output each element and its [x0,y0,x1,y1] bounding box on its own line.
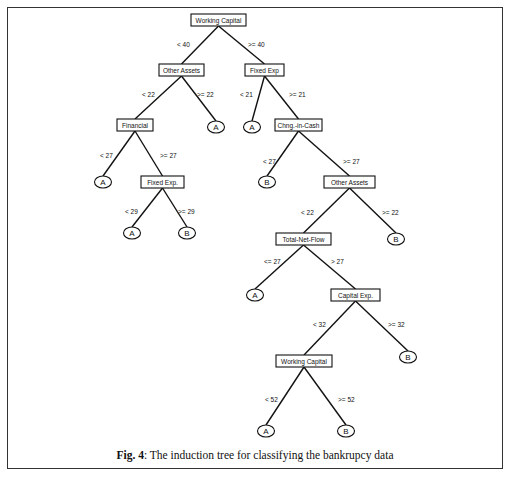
tree-edge [304,301,356,355]
tree-edge [299,131,350,176]
edge-condition-label: < 29 [125,208,138,215]
edge-condition-label: < 21 [240,91,253,98]
tree-nodes: Working CapitalOther AssetsFixed ExpFina… [95,14,417,437]
tree-edge [252,76,265,121]
split-node-label: Capital Exp. [338,292,373,300]
edge-condition-label: < 27 [263,158,276,165]
edge-condition-label: <= 27 [264,258,281,265]
leaf-class-label: B [405,353,410,362]
leaf-class-label: A [100,178,106,187]
leaf-node: A [124,227,141,239]
tree-edges: < 40>= 40< 22>= 22< 21>= 21< 27>= 27< 27… [100,26,408,425]
leaf-class-label: A [129,229,135,238]
leaf-class-label: B [393,235,398,244]
leaf-class-label: A [263,427,269,436]
tree-edge [135,131,163,176]
leaf-node: A [258,425,275,437]
leaf-class-label: B [264,178,269,187]
edge-condition-label: < 32 [313,321,326,328]
edge-condition-label: >= 52 [338,396,355,403]
split-node-label: Financial [122,122,149,129]
edge-condition-label: >= 32 [388,321,405,328]
leaf-node: A [208,121,225,133]
split-node-label: Other Assets [163,67,201,74]
leaf-class-label: A [252,291,258,300]
edge-condition-label: < 40 [177,41,190,48]
edge-condition-label: >= 22 [382,209,399,216]
split-node-label: Working Capital [281,358,327,366]
tree-edge [182,76,217,121]
leaf-node: A [95,176,112,188]
caption-label: Fig. 4 [117,449,144,461]
split-node: Fixed Exp [245,64,284,76]
leaf-node: A [244,121,261,133]
split-node-label: Fixed Exp. [147,179,178,187]
split-node-label: Fixed Exp [250,67,279,75]
edge-condition-label: >= 29 [178,208,195,215]
split-node: Capital Exp. [331,289,380,301]
split-node: Other Assets [159,64,204,76]
edge-condition-label: >= 21 [289,91,306,98]
edge-condition-label: >= 27 [160,152,177,159]
split-node-label: Total-Net-Flow [283,236,325,243]
split-node: Financial [117,119,153,131]
edge-condition-label: >= 22 [197,91,214,98]
edge-condition-label: >= 27 [343,158,360,165]
leaf-class-label: A [213,123,219,132]
leaf-class-label: B [184,229,189,238]
caption-text: : The induction tree for classifying the… [144,449,394,461]
figure-caption: Fig. 4: The induction tree for classifyi… [0,449,510,461]
leaf-node: B [338,425,355,437]
edge-condition-label: > 27 [331,258,344,265]
split-node: Working Capital [276,355,332,367]
split-node: Total-Net-Flow [276,233,331,245]
leaf-node: B [400,351,417,363]
tree-edge [304,245,356,289]
split-node: Working Capital [191,14,246,26]
leaf-node: B [259,176,276,188]
split-node-label: Chng.-in-Cash [278,122,320,130]
leaf-class-label: B [343,427,348,436]
leaf-node: B [179,227,196,239]
edge-condition-label: < 52 [265,396,278,403]
leaf-node: B [388,233,405,245]
edge-condition-label: < 22 [142,91,155,98]
leaf-class-label: A [249,123,255,132]
induction-tree-diagram: < 40>= 40< 22>= 22< 21>= 21< 27>= 27< 27… [0,0,510,477]
split-node: Chng.-in-Cash [275,119,322,131]
tree-edge [255,245,304,289]
split-node: Fixed Exp. [141,176,184,188]
edge-condition-label: < 22 [301,209,314,216]
split-node: Other Assets [324,176,375,188]
split-node-label: Other Assets [331,179,369,186]
edge-condition-label: >= 40 [248,41,265,48]
edge-condition-label: < 27 [100,152,113,159]
split-node-label: Working Capital [196,17,242,25]
tree-edge [267,131,299,176]
leaf-node: A [247,289,264,301]
